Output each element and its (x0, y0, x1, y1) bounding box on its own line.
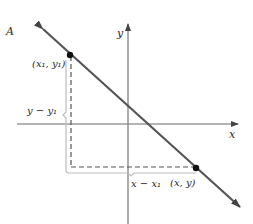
panel-label: A (5, 25, 14, 38)
line-slope-diagram: A y x (x₁, y₁) (x, y) y − y₁ x − x₁ (0, 0, 253, 224)
y-axis-label: y (116, 27, 124, 40)
bracket-x-minus-x1 (69, 173, 196, 176)
bracket-y-minus-y1 (63, 60, 69, 173)
y-minus-y1-label: y − y₁ (26, 105, 57, 116)
point-x-y-label: (x, y) (170, 177, 196, 188)
x-minus-x1-label: x − x₁ (131, 178, 161, 189)
x-axis-label: x (229, 128, 236, 141)
point-x-y (193, 165, 199, 171)
point-x1-y1-label: (x₁, y₁) (32, 58, 66, 69)
point-x1-y1 (67, 52, 73, 58)
